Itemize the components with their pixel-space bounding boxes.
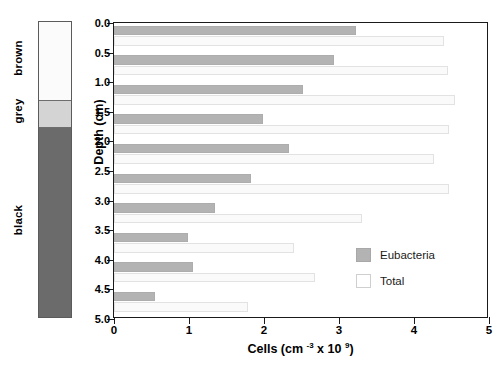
bar-eubacteria — [114, 292, 155, 302]
chart-legend: EubacteriaTotal — [356, 244, 476, 296]
y-tick-label: 3.5 — [95, 224, 110, 236]
x-tick-label: 4 — [411, 324, 417, 336]
bar-total — [114, 36, 444, 46]
y-axis-title: Depth (cm) — [66, 125, 86, 139]
bar-eubacteria — [114, 144, 289, 154]
bar-eubacteria — [114, 114, 263, 124]
bar-eubacteria — [114, 262, 193, 272]
x-tick-mark — [489, 317, 490, 324]
y-tick-label: 3.0 — [95, 195, 110, 207]
x-tick-mark — [414, 317, 415, 324]
bar-total — [114, 95, 455, 105]
bar-total — [114, 154, 434, 164]
bar-total — [114, 125, 449, 135]
y-tick-label: 2.0 — [95, 135, 110, 147]
x-tick-mark — [264, 317, 265, 324]
bar-eubacteria — [114, 26, 356, 36]
bar-total — [114, 273, 315, 283]
x-tick-label: 0 — [111, 324, 117, 336]
legend-label-total: Total — [380, 275, 404, 287]
bar-total — [114, 243, 294, 253]
bar-eubacteria — [114, 203, 215, 213]
x-axis-title-exponent-units: -3 — [307, 341, 314, 350]
bar-eubacteria — [114, 174, 251, 184]
y-tick-label: 4.0 — [95, 254, 110, 266]
bar-total — [114, 66, 448, 76]
legend-item-total: Total — [356, 270, 476, 292]
bar-total — [114, 184, 449, 194]
bar-chart-panel: Depth (cm) 0.00.51.01.52.02.53.03.54.04.… — [0, 0, 503, 368]
bar-eubacteria — [114, 55, 334, 65]
y-tick-label: 2.5 — [95, 165, 110, 177]
x-axis-title-mid: x 10 — [314, 342, 345, 356]
legend-swatch-total — [356, 274, 371, 288]
y-tick-label: 0.0 — [95, 17, 110, 29]
x-tick-mark — [189, 317, 190, 324]
bar-total — [114, 302, 248, 312]
x-axis-title-prefix: Cells (cm — [247, 342, 306, 356]
legend-swatch-eub — [356, 248, 371, 262]
y-tick-label: 4.5 — [95, 283, 110, 295]
y-tick-label: 1.0 — [95, 76, 110, 88]
x-axis-title: Cells (cm -3 x 10 9) — [113, 341, 488, 356]
legend-label-eub: Eubacteria — [380, 249, 435, 261]
bar-eubacteria — [114, 233, 188, 243]
legend-item-eub: Eubacteria — [356, 244, 476, 266]
x-tick-label: 1 — [186, 324, 192, 336]
x-axis-title-suffix: ) — [349, 342, 353, 356]
x-tick-label: 5 — [486, 324, 492, 336]
x-tick-label: 2 — [261, 324, 267, 336]
bar-eubacteria — [114, 85, 303, 95]
bar-total — [114, 214, 362, 224]
x-tick-mark — [339, 317, 340, 324]
x-tick-label: 3 — [336, 324, 342, 336]
y-tick-label: 1.5 — [95, 106, 110, 118]
y-tick-label: 0.5 — [95, 47, 110, 59]
y-tick-label: 5.0 — [95, 313, 110, 325]
x-tick-mark — [114, 317, 115, 324]
